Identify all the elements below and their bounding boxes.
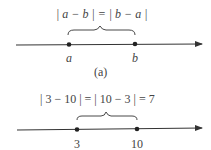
label-a: a [66,51,72,66]
number-line-b [17,112,203,132]
label-10: 10 [131,137,143,150]
equation-a: | a − b | = | b − a | [56,7,148,22]
label-3: 3 [74,137,80,150]
caption-a: (a) [94,65,107,80]
label-b: b [132,51,138,66]
equation-b: | 3 − 10 | = | 10 − 3 | = 7 [40,92,155,107]
number-line-a [16,26,203,47]
